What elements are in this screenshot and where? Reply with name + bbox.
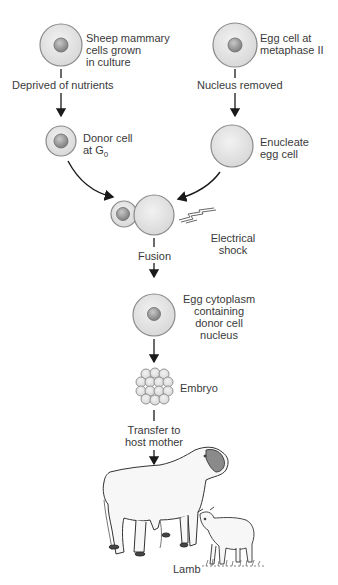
mammary-cells-label: Sheep mammary cells grown in culture: [86, 32, 170, 68]
lamb-label: Lamb: [173, 563, 201, 575]
lightning-bolt-icon: [179, 208, 216, 223]
lamb-icon: [198, 507, 254, 564]
fusion-cells-icon: [111, 195, 174, 235]
transfer-step-label: Transfer to host mother: [114, 424, 194, 448]
embryo-label: Embryo: [180, 382, 218, 394]
electrical-shock-label: Electrical shock: [203, 232, 263, 256]
mammary-cell-icon: [40, 24, 82, 66]
reconstructed-egg-icon: [133, 294, 175, 336]
g0-subscript: 0: [104, 150, 108, 159]
fusion-step-label: Fusion: [138, 250, 171, 262]
donor-cell-icon: [46, 126, 76, 156]
donor-cell-label: Donor cell at G0: [83, 132, 133, 156]
cloning-diagram: Sheep mammary cells grown in culture Egg…: [0, 0, 338, 585]
egg-cell-label: Egg cell at metaphase II: [260, 32, 324, 56]
enucleate-egg-icon: [211, 125, 253, 167]
curved-arrow-icon: [178, 172, 220, 199]
embryo-icon: [136, 368, 173, 405]
nucleus-removed-step-label: Nucleus removed: [197, 79, 283, 91]
reconstructed-egg-label: Egg cytoplasm containing donor cell nucl…: [177, 293, 261, 341]
curved-arrow-icon: [68, 161, 113, 197]
deprived-step-label: Deprived of nutrients: [12, 79, 114, 91]
enucleate-egg-label: Enucleate egg cell: [260, 136, 309, 160]
host-mother-sheep-icon: [103, 447, 228, 556]
egg-cell-icon: [213, 23, 257, 67]
